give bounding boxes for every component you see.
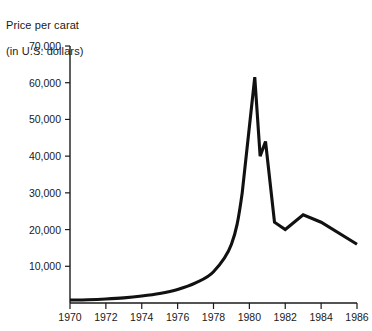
- x-tick-label: 1982: [274, 311, 298, 323]
- x-tick-label: 1978: [202, 311, 226, 323]
- y-tick-label: 50,000: [29, 113, 61, 125]
- x-tick-label: 1976: [166, 311, 190, 323]
- y-tick-label: 60,000: [29, 77, 61, 89]
- x-tick-label: 1980: [238, 311, 262, 323]
- x-tick-label: 1974: [130, 311, 154, 323]
- y-tick-label: 30,000: [29, 187, 61, 199]
- y-tick-label: 70,000: [29, 40, 61, 52]
- x-tick-label: 1984: [309, 311, 333, 323]
- y-tick-label: 40,000: [29, 150, 61, 162]
- y-tick-label: 10,000: [29, 260, 61, 272]
- price-per-carat-line: [70, 77, 357, 300]
- y-tick-label: 20,000: [29, 224, 61, 236]
- x-axis-group: 197019721974197619781980198219841986: [58, 303, 369, 323]
- x-tick-label: 1986: [345, 311, 369, 323]
- y-axis-ticks: [65, 46, 70, 266]
- y-axis-group: 10,00020,00030,00040,00050,00060,00070,0…: [29, 40, 70, 303]
- x-axis-tick-labels: 197019721974197619781980198219841986: [58, 311, 369, 323]
- data-series-group: [70, 77, 357, 300]
- y-axis-tick-labels: 10,00020,00030,00040,00050,00060,00070,0…: [29, 40, 61, 272]
- chart-container: Price per carat (in U.S. dollars) 10,000…: [0, 0, 372, 331]
- chart-svg: 10,00020,00030,00040,00050,00060,00070,0…: [0, 0, 372, 331]
- x-tick-label: 1972: [94, 311, 118, 323]
- x-axis-ticks: [70, 303, 357, 309]
- x-tick-label: 1970: [58, 311, 82, 323]
